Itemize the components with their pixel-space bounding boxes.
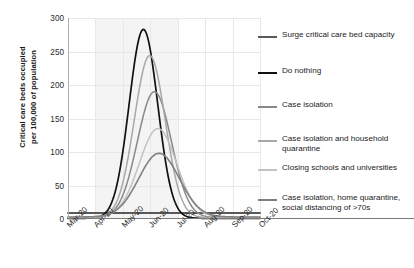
legend-item[interactable]: Case isolation — [258, 100, 333, 111]
legend-label: Surge critical care bed capacity — [282, 30, 394, 40]
legend-item[interactable]: Case isolation, home quarantine, social … — [258, 193, 400, 212]
plot-area — [68, 18, 260, 219]
x-axis-tick-labels: Mar-20Apr-20May-20Jun-20Jul-20Aug-20Sep-… — [0, 219, 414, 268]
legend-item[interactable]: Surge critical care bed capacity — [258, 30, 394, 41]
legend-color-swatch-icon — [258, 196, 277, 204]
series-line — [68, 56, 260, 218]
y-axis-tick: 200 — [38, 81, 64, 90]
y-axis-line — [68, 18, 69, 219]
y-axis-tick: 50 — [38, 181, 64, 190]
y-axis-tick: 300 — [38, 14, 64, 23]
legend-label: Do nothing — [282, 66, 321, 76]
legend-label: Case isolation, home quarantine, social … — [282, 193, 400, 212]
critical-care-beds-chart: Critical care beds occupied per 100,000 … — [0, 0, 414, 268]
legend-label: Case isolation and household quarantine — [282, 134, 388, 153]
y-axis-tick: 150 — [38, 114, 64, 123]
series-curves — [68, 18, 260, 219]
legend-color-swatch-icon — [258, 137, 277, 145]
legend-color-swatch-icon — [258, 69, 277, 77]
legend-item[interactable]: Case isolation and household quarantine — [258, 134, 388, 153]
series-line — [68, 129, 260, 217]
legend-color-swatch-icon — [258, 166, 277, 174]
legend-color-swatch-icon — [258, 103, 277, 111]
legend-label: Case isolation — [282, 100, 333, 110]
legend-label: Closing schools and universities — [282, 163, 397, 173]
legend-color-swatch-icon — [258, 33, 277, 41]
legend-item[interactable]: Closing schools and universities — [258, 163, 397, 174]
y-axis-tick: 100 — [38, 148, 64, 157]
series-line — [68, 29, 260, 218]
y-axis-tick: 250 — [38, 47, 64, 56]
chart-legend: Surge critical care bed capacityDo nothi… — [258, 18, 414, 214]
legend-item[interactable]: Do nothing — [258, 66, 321, 77]
